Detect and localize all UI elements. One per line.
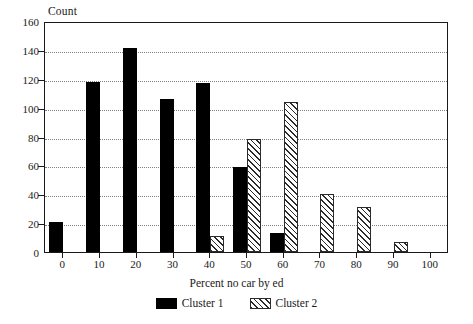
bar-cluster-1-10	[86, 82, 100, 252]
y-axis-tick-label: 40	[5, 189, 39, 201]
x-axis-tick-mark	[393, 253, 394, 258]
bar-cluster-1-50	[233, 167, 247, 252]
x-axis-tick-label: 90	[373, 258, 413, 270]
bar-cluster-1-0	[49, 222, 63, 252]
x-axis-tick-label: 40	[189, 258, 229, 270]
x-axis-tick-mark	[246, 253, 247, 258]
y-axis-tick-label: 140	[5, 45, 39, 57]
bar-cluster-1-20	[123, 48, 137, 252]
bar-cluster-1-40	[196, 83, 210, 252]
x-axis-tick-mark	[283, 253, 284, 258]
y-axis-tick-labels: 020406080100120140160	[0, 0, 39, 324]
x-axis-tick-mark	[136, 253, 137, 258]
x-axis-tick-mark	[209, 253, 210, 258]
x-axis-tick-mark	[62, 253, 63, 258]
x-axis-tick-label: 100	[410, 258, 450, 270]
bar-chart: Count 020406080100120140160 010203040506…	[0, 0, 473, 324]
y-axis-tick-label: 100	[5, 103, 39, 115]
y-axis-tick-label: 120	[5, 74, 39, 86]
chart-legend: Cluster 1 Cluster 2	[0, 297, 473, 309]
gridline	[45, 139, 447, 140]
bar-cluster-2-60	[284, 102, 298, 252]
x-axis-tick-label: 60	[263, 258, 303, 270]
y-axis-tick-label: 80	[5, 132, 39, 144]
plot-area	[44, 22, 448, 253]
legend-swatch-icon-cluster-1	[156, 298, 177, 309]
x-axis-tick-label: 10	[79, 258, 119, 270]
gridline	[45, 81, 447, 82]
gridline	[45, 52, 447, 53]
bar-cluster-1-60	[270, 233, 284, 252]
x-axis-tick-label: 80	[336, 258, 376, 270]
y-axis-tick-label: 0	[5, 247, 39, 259]
x-axis-tick-label: 30	[153, 258, 193, 270]
x-axis-tick-mark	[430, 253, 431, 258]
bar-cluster-1-30	[160, 99, 174, 252]
legend-item-cluster-2: Cluster 2	[250, 297, 318, 309]
x-axis-tick-label: 70	[299, 258, 339, 270]
bar-cluster-2-50	[247, 139, 261, 252]
gridline	[45, 110, 447, 111]
x-axis-tick-mark	[319, 253, 320, 258]
bar-cluster-2-70	[320, 194, 334, 252]
legend-item-cluster-1: Cluster 1	[156, 297, 224, 309]
y-axis-title: Count	[48, 5, 77, 17]
x-axis-tick-mark	[356, 253, 357, 258]
legend-label-cluster-1: Cluster 1	[182, 297, 224, 309]
x-axis-tick-label: 50	[226, 258, 266, 270]
bar-cluster-2-80	[357, 207, 371, 252]
x-axis-tick-label: 20	[116, 258, 156, 270]
plot-inner	[45, 23, 447, 252]
y-axis-tick-label: 160	[5, 16, 39, 28]
legend-swatch-icon-cluster-2	[250, 298, 271, 309]
x-axis-tick-mark	[99, 253, 100, 258]
bar-cluster-2-90	[394, 242, 408, 252]
x-axis-tick-label: 0	[42, 258, 82, 270]
x-axis-title: Percent no car by ed	[0, 277, 473, 289]
y-axis-tick-label: 60	[5, 160, 39, 172]
y-axis-tick-label: 20	[5, 218, 39, 230]
legend-label-cluster-2: Cluster 2	[276, 297, 318, 309]
x-axis-tick-mark	[173, 253, 174, 258]
bar-cluster-2-40	[210, 236, 224, 252]
